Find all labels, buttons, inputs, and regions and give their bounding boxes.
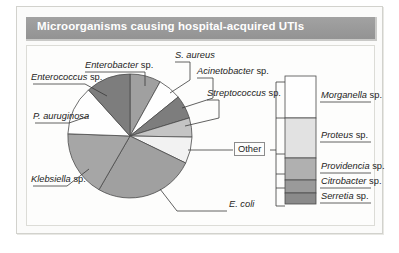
- label-acinetobacter: Acinetobacter sp.: [197, 66, 269, 76]
- label-citrobacter: Citrobacter sp.: [321, 176, 381, 186]
- bar-segment-providencia: [285, 158, 316, 180]
- label-s-aureus: S. aureus: [175, 50, 215, 60]
- label-serretia: Serretia sp.: [321, 191, 369, 201]
- label-klebsiella: Klebsiella sp.: [31, 174, 86, 184]
- bar-segment-serretia: [285, 193, 316, 204]
- label-streptococcus: Streptococcus sp.: [207, 88, 281, 98]
- figure-title: Microorganisms causing hospital-acquired…: [37, 20, 304, 32]
- label-p-auruginosa: P. auruginosa: [33, 111, 89, 121]
- bar-segment-proteus: [285, 118, 316, 158]
- label-other: Other: [234, 142, 265, 156]
- breakout-label-rules: [320, 102, 371, 203]
- label-enterobacter: Enterobacter sp.: [85, 60, 153, 70]
- label-morganella: Morganella sp.: [321, 90, 382, 100]
- chart-plot-area: Enterobacter sp. Enterococcus sp. S. aur…: [26, 45, 375, 226]
- figure-title-bar: Microorganisms causing hospital-acquired…: [26, 17, 377, 41]
- label-enterococcus: Enterococcus sp.: [31, 72, 102, 82]
- bar-segment-citrobacter: [285, 180, 316, 193]
- label-providencia: Providencia sp.: [321, 161, 385, 171]
- label-e-coli: E. coli: [229, 199, 254, 209]
- bar-segment-morganella: [285, 76, 316, 118]
- label-proteus: Proteus sp.: [321, 130, 368, 140]
- other-breakout-bracket: [270, 82, 285, 206]
- figure-container: Microorganisms causing hospital-acquired…: [16, 6, 383, 234]
- other-stacked-bar: [285, 76, 316, 204]
